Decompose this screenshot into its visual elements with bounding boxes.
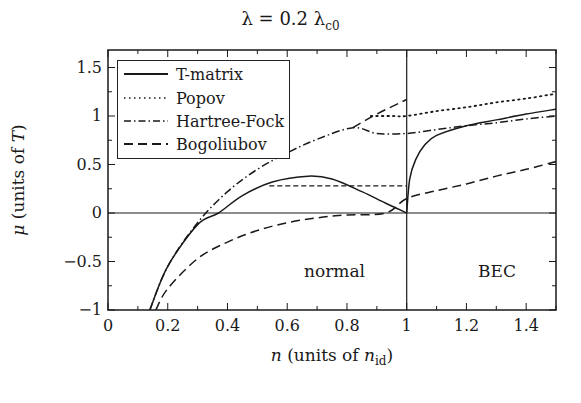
y-tick-label: 0.5 (77, 155, 102, 174)
x-tick-label: 1 (402, 316, 412, 335)
x-tick-label: 0 (103, 316, 113, 335)
legend-label: T-matrix (176, 65, 243, 84)
series-bogoliubov (156, 162, 556, 310)
legend-item-t-matrix: T-matrix (124, 63, 243, 85)
dash-dot-line-icon (124, 119, 168, 123)
legend-item-popov: Popov (124, 87, 225, 109)
dashed-line-icon (124, 142, 168, 146)
y-tick-label: 0 (92, 203, 102, 222)
legend-item-bogoliubov: Bogoliubov (124, 133, 267, 155)
x-tick-label: 0.6 (274, 316, 299, 335)
y-tick-label: 1 (92, 106, 102, 125)
dotted-line-icon (124, 96, 168, 100)
x-axis-label: n (units of nid) (271, 345, 393, 368)
legend: T-matrix Popov Hartree-Fock Bogoliubov (117, 60, 290, 159)
legend-label: Bogoliubov (176, 135, 267, 154)
legend-label: Popov (176, 89, 225, 108)
x-tick-label: 0.2 (155, 316, 180, 335)
x-tick-label: 1.2 (454, 316, 479, 335)
series-t-matrix (150, 176, 407, 310)
y-tick-label: −1 (78, 300, 102, 319)
x-tick-label: 1.4 (513, 316, 538, 335)
region-label-normal: normal (304, 261, 365, 281)
x-tick-label: 0.8 (334, 316, 359, 335)
legend-label: Hartree-Fock (176, 112, 284, 131)
y-tick-label: −0.5 (63, 252, 102, 271)
y-axis-label: μ (units of T) (8, 124, 28, 235)
bogoliubov-upper-branch (353, 100, 407, 128)
solid-line-icon (124, 72, 168, 76)
region-label-bec: BEC (478, 261, 516, 281)
legend-item-hartree-fock: Hartree-Fock (124, 110, 284, 132)
y-tick-label: 1.5 (77, 58, 102, 77)
x-tick-label: 0.4 (215, 316, 240, 335)
